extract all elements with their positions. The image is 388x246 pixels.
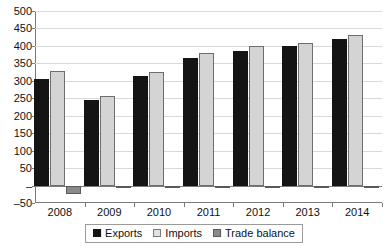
bar-group	[35, 11, 85, 203]
legend-label: Imports	[165, 227, 202, 239]
bar-imports	[100, 96, 115, 186]
bar-exports	[233, 51, 248, 186]
bar-exports	[133, 76, 148, 185]
bar-exports	[84, 100, 99, 185]
y-axis-tick-label: 450	[0, 23, 32, 34]
bar-group	[184, 11, 234, 203]
y-axis-tick-label: 350	[0, 58, 32, 69]
bar-balance	[165, 186, 180, 188]
bar-balance	[215, 186, 230, 188]
y-axis-tick-label: 150	[0, 128, 32, 139]
legend-item-balance[interactable]: Trade balance	[213, 227, 295, 239]
bar-balance	[364, 186, 379, 188]
y-axis-tick-label: 200	[0, 110, 32, 121]
x-axis-label-2013: 2013	[283, 206, 333, 218]
y-axis-tick-label: 50	[0, 163, 32, 174]
y-axis-tick-label: 100	[0, 145, 32, 156]
bar-imports	[50, 71, 65, 186]
y-axis-tick-label: 300	[0, 75, 32, 86]
bar-groups	[35, 11, 382, 203]
x-axis-label-2014: 2014	[332, 206, 382, 218]
bar-chart: 50045040035030025020015010050––50 Export…	[0, 0, 388, 246]
bar-group	[283, 11, 333, 203]
bar-balance	[116, 186, 131, 188]
bar-exports	[332, 39, 347, 185]
legend-swatch-icon	[153, 229, 161, 237]
bar-imports	[249, 46, 264, 186]
bar-balance	[66, 186, 81, 194]
legend-label: Trade balance	[225, 227, 295, 239]
y-axis-tick-label: –	[0, 180, 32, 191]
y-axis-tick-label: 500	[0, 6, 32, 17]
bar-group	[233, 11, 283, 203]
bar-imports	[348, 35, 363, 186]
bar-exports	[282, 46, 297, 186]
bar-group	[134, 11, 184, 203]
x-axis-label-2008: 2008	[35, 206, 85, 218]
bar-group	[85, 11, 135, 203]
x-axis-label-2012: 2012	[233, 206, 283, 218]
bar-exports	[34, 79, 49, 186]
bar-imports	[149, 72, 164, 185]
legend-item-imports[interactable]: Imports	[153, 227, 202, 239]
bar-balance	[265, 186, 280, 188]
bar-imports	[298, 43, 313, 186]
x-axis-label-2010: 2010	[134, 206, 184, 218]
bar-imports	[199, 53, 214, 185]
y-axis: 50045040035030025020015010050––50	[0, 11, 32, 203]
bar-exports	[183, 58, 198, 186]
x-axis-label-2011: 2011	[184, 206, 234, 218]
y-axis-tick-label: 250	[0, 93, 32, 104]
y-axis-tick-mark	[32, 203, 35, 204]
chart-legend: ExportsImportsTrade balance	[85, 224, 303, 243]
legend-item-exports[interactable]: Exports	[93, 227, 142, 239]
bar-group	[332, 11, 382, 203]
y-axis-tick-label: 400	[0, 40, 32, 51]
x-axis-label-2009: 2009	[84, 206, 134, 218]
legend-swatch-icon	[93, 229, 101, 237]
legend-swatch-icon	[213, 229, 221, 237]
legend-label: Exports	[105, 227, 142, 239]
y-axis-tick-label: –50	[0, 198, 32, 209]
bar-balance	[314, 186, 329, 188]
